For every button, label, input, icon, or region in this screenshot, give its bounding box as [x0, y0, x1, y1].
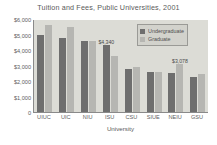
- bar: [111, 56, 118, 112]
- bar: [155, 72, 162, 112]
- bar: [67, 27, 74, 112]
- bar: [45, 25, 52, 112]
- x-axis: UIUCUICNIUISUCSUSIUENEIUGSU: [33, 114, 208, 124]
- y-axis-tick-label: $3,000: [1, 63, 31, 71]
- y-axis-tick-label: $4,000: [1, 47, 31, 55]
- y-axis-tick: 0: [0, 109, 31, 117]
- legend-item-undergraduate: Undergraduate: [140, 27, 184, 35]
- y-axis-tick-label: $5,000: [1, 32, 31, 40]
- legend-item-graduate: Graduate: [140, 35, 184, 43]
- bar-group: [190, 20, 207, 112]
- x-axis-tick-label: SIUE: [147, 114, 160, 120]
- bar-value-label: $3,078: [172, 58, 188, 64]
- bar: [168, 73, 175, 112]
- x-axis-tick-label: ISU: [105, 114, 114, 120]
- y-axis-tick-label: 0: [1, 109, 31, 117]
- legend-swatch-undergraduate: [140, 29, 145, 34]
- bar: [81, 41, 88, 112]
- chart-title: Tuition and Fees, Public Universities, 2…: [0, 3, 217, 12]
- bar: [147, 72, 154, 112]
- y-axis-tick-label: $1,000: [1, 94, 31, 102]
- legend-label-undergraduate: Undergraduate: [148, 28, 184, 34]
- y-axis-tick: $1,000: [0, 94, 31, 102]
- x-axis-tick-label: CSU: [126, 114, 138, 120]
- bar: [133, 67, 140, 112]
- bar-group: [81, 20, 98, 112]
- y-axis: $6,000$5,000$4,000$3,000$2,000$1,0000: [0, 20, 31, 113]
- x-axis-tick-label: NEIU: [169, 114, 182, 120]
- chart-legend: Undergraduate Graduate: [137, 24, 188, 46]
- bar-group: [37, 20, 54, 112]
- bar-group: [59, 20, 76, 112]
- y-axis-tick-label: $6,000: [1, 16, 31, 24]
- x-axis-tick-label: GSU: [191, 114, 203, 120]
- bar-group: [103, 20, 120, 112]
- bar: [103, 45, 110, 112]
- y-axis-tick: $5,000: [0, 32, 31, 40]
- bar: [37, 35, 44, 113]
- x-axis-tick-label: UIUC: [37, 114, 51, 120]
- bar: [198, 74, 205, 112]
- bar: [125, 69, 132, 112]
- bar-value-label: $4,340: [98, 39, 114, 45]
- y-axis-tick: $2,000: [0, 78, 31, 86]
- y-axis-tick: $3,000: [0, 63, 31, 71]
- x-axis-tick-label: UIC: [61, 114, 71, 120]
- y-axis-tick: $6,000: [0, 16, 31, 24]
- x-axis-title: University: [33, 125, 208, 132]
- bar: [59, 38, 66, 112]
- y-axis-tick-label: $2,000: [1, 78, 31, 86]
- bar: [190, 77, 197, 112]
- bar: [176, 64, 183, 112]
- chart-figure: Tuition and Fees, Public Universities, 2…: [0, 0, 217, 145]
- legend-swatch-graduate: [140, 37, 145, 42]
- legend-label-graduate: Graduate: [148, 36, 170, 42]
- x-axis-tick-label: NIU: [83, 114, 93, 120]
- bar: [89, 41, 96, 112]
- y-axis-tick: $4,000: [0, 47, 31, 55]
